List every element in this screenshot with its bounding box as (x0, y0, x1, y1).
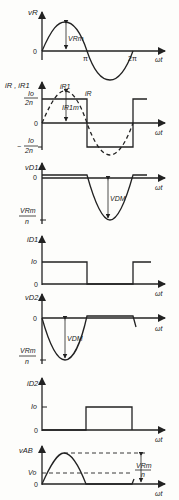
level-den: n (25, 358, 29, 365)
waveform-canvas: vR 0 π 2π ωt VRm iR , iR1 Io 2n 0 − Io 2… (0, 0, 179, 500)
diode-current-wave (42, 262, 151, 284)
two-pi-label: 2π (128, 55, 137, 62)
y-label: vD2 (25, 293, 39, 302)
panel-id2: iD2 Io 0 ωt (27, 378, 165, 443)
output-voltage-wave (42, 453, 134, 484)
minus-level-den: 2n (24, 147, 33, 154)
x-label: ωt (155, 290, 163, 297)
zero-label: 0 (34, 481, 38, 488)
zero-label: 0 (34, 427, 38, 434)
pi-label: π (83, 55, 88, 62)
y-label: vD1 (25, 163, 38, 172)
dip-label: VDM (110, 195, 126, 202)
zero-label: 0 (34, 281, 38, 288)
panel-vd2: vD2 0 VRm n VDM ωt (19, 293, 165, 365)
y-label: iR , iR1 (5, 81, 30, 90)
minus-sign: − (17, 143, 21, 150)
dip-label: VDM (67, 335, 83, 342)
y-label: vR (28, 8, 38, 17)
zero-label: 0 (33, 315, 37, 322)
level-num: VRm (20, 347, 36, 354)
level-num: VRm (20, 207, 36, 214)
x-label: ωt (155, 436, 163, 443)
y-label: vAB (19, 446, 33, 455)
x-label: ωt (155, 184, 163, 191)
y-label: iD2 (27, 379, 39, 388)
x-label: ωt (155, 490, 163, 497)
fundamental-label: iR1 (60, 83, 71, 90)
plus-level-den: 2n (24, 99, 33, 106)
level-label: Io (31, 403, 37, 410)
waveform-diagram: vR 0 π 2π ωt VRm iR , iR1 Io 2n 0 − Io 2… (0, 0, 179, 500)
level-label: Io (31, 258, 37, 265)
zero-label: 0 (33, 48, 37, 55)
diode-voltage-wave (42, 316, 136, 360)
peak-den: n (141, 471, 145, 478)
diode-voltage-wave (42, 175, 147, 220)
diode-current-wave (42, 407, 132, 430)
peak-num: VRm (136, 462, 152, 469)
zero-label: 0 (33, 174, 37, 181)
panel-vab: vAB Vo 0 VRm n ωt (19, 446, 165, 497)
x-label: ωt (155, 129, 163, 136)
plus-level-num: Io (28, 90, 34, 97)
minus-level-num: Io (28, 137, 34, 144)
average-label: Vo (28, 469, 36, 476)
panel-ir: iR , iR1 Io 2n 0 − Io 2n iR1 iR IR1m ωt (5, 81, 165, 155)
amplitude-label: VRm (68, 35, 84, 42)
x-label: ωt (155, 56, 163, 63)
panel-vd1: vD1 0 VRm n VDM ωt (19, 163, 165, 225)
panel-vr: vR 0 π 2π ωt VRm (28, 8, 165, 80)
fundamental-amp-label: IR1m (62, 104, 79, 111)
zero-label: 0 (34, 120, 38, 127)
level-den: n (25, 218, 29, 225)
x-label: ωt (155, 325, 163, 332)
square-label: iR (85, 90, 92, 97)
panel-id1: iD1 Io 0 ωt (27, 235, 165, 297)
y-label: iD1 (27, 235, 38, 244)
